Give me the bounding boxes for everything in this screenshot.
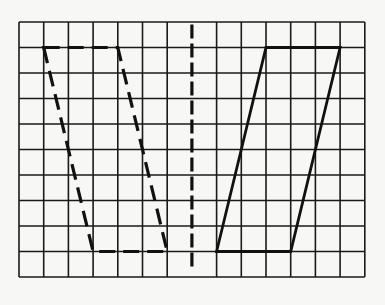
grid-diagram: [0, 0, 385, 305]
